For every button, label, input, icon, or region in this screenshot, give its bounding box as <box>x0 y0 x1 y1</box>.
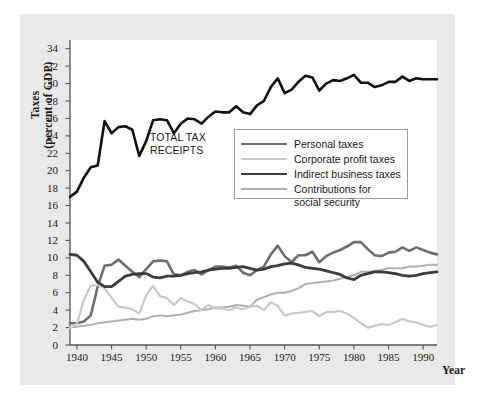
y-tick-label: 24 <box>32 130 58 141</box>
annotation-line1: TOTAL TAX <box>150 131 206 144</box>
chart-figure: Taxes (percent of GDP) 02468101214161820… <box>0 0 487 401</box>
y-tick-label: 10 <box>32 252 58 263</box>
x-axis-title: Year <box>442 364 465 376</box>
series-line-corporate-profit-taxes <box>70 285 437 328</box>
legend-line-swatch <box>241 143 287 145</box>
y-tick-label: 16 <box>32 200 58 211</box>
total-tax-receipts-annotation: TOTAL TAX RECEIPTS <box>150 131 206 157</box>
legend-line-swatch <box>241 158 287 160</box>
y-tick-label: 22 <box>32 148 58 159</box>
y-tick-label: 20 <box>32 165 58 176</box>
chart-legend: Personal taxesCorporate profit taxesIndi… <box>234 129 408 199</box>
legend-item[interactable]: Personal taxes <box>241 136 363 151</box>
chart-canvas <box>0 0 487 401</box>
y-tick-label: 4 <box>32 305 58 316</box>
y-tick-label: 6 <box>32 287 58 298</box>
y-tick-label: 34 <box>32 43 58 54</box>
legend-item[interactable]: Contributions for <box>241 181 371 196</box>
y-tick-label: 2 <box>32 322 58 333</box>
y-tick-label: 8 <box>32 270 58 281</box>
legend-item[interactable]: Indirect business taxes <box>241 166 401 181</box>
legend-line-swatch <box>241 173 287 175</box>
y-tick-label: 30 <box>32 78 58 89</box>
legend-line-swatch <box>241 188 287 190</box>
y-tick-label: 32 <box>32 61 58 72</box>
legend-item-label: Corporate profit taxes <box>294 153 395 165</box>
series-line-indirect-business-taxes <box>70 254 437 286</box>
legend-item-label: Contributions for <box>294 183 371 195</box>
series-line-personal-taxes <box>70 242 437 323</box>
y-tick-label: 14 <box>32 218 58 229</box>
x-tick-label: 1990 <box>403 352 443 363</box>
annotation-line2: RECEIPTS <box>150 144 206 157</box>
y-tick-label: 0 <box>32 340 58 351</box>
legend-item[interactable]: Corporate profit taxes <box>241 151 395 166</box>
legend-item-label-continuation: social security <box>294 196 360 208</box>
y-tick-label: 26 <box>32 113 58 124</box>
y-tick-label: 18 <box>32 183 58 194</box>
y-tick-label: 28 <box>32 96 58 107</box>
legend-item-label: Indirect business taxes <box>294 168 401 180</box>
legend-item-label: Personal taxes <box>294 138 363 150</box>
y-tick-label: 12 <box>32 235 58 246</box>
